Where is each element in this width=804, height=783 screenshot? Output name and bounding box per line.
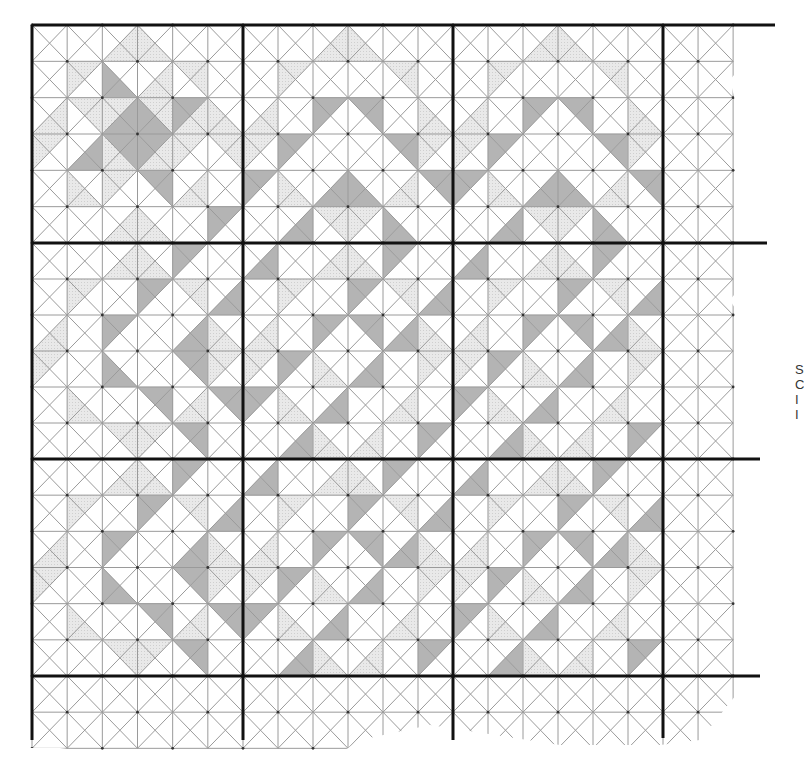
cropped-side-label: S C I I <box>795 362 804 422</box>
